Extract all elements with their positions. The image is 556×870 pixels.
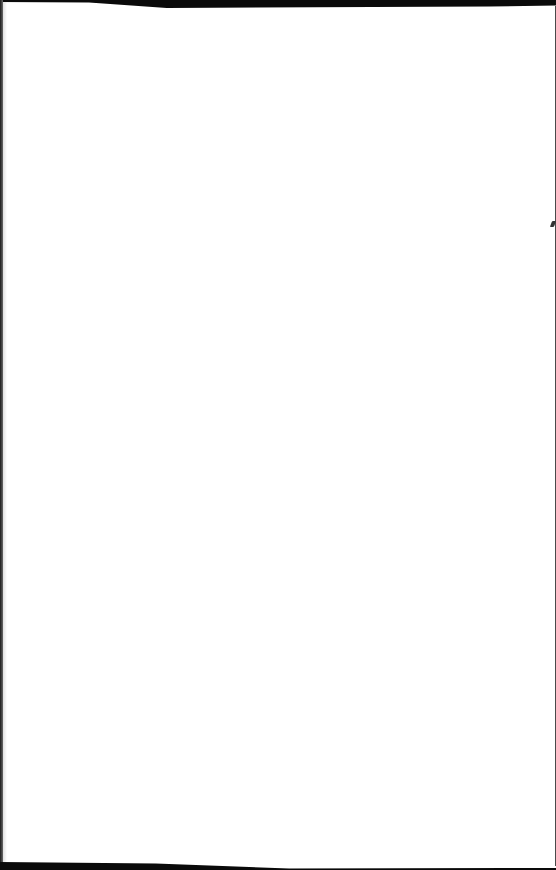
scanned-page	[0, 0, 556, 870]
page-body	[8, 12, 548, 860]
scan-border-left-shadow	[3, 0, 7, 870]
scan-border-top	[0, 0, 556, 10]
scan-border-bottom	[0, 862, 556, 870]
